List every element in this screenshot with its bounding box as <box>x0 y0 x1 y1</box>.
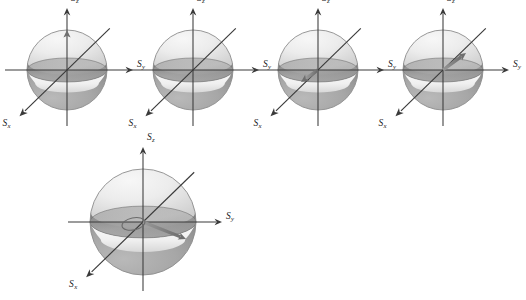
axis-label-sx-base: S <box>2 118 7 128</box>
axis-label-sx-base: S <box>253 118 258 128</box>
axis-label-sz: Sz <box>71 0 78 4</box>
axis-label-sz-subscript: z <box>152 136 155 143</box>
figure-canvas: SzSySxSzSySxSzSySxSzSySxSzSySx <box>0 0 526 300</box>
axis-label-sz-subscript: z <box>452 0 455 4</box>
axis-label-sz: Sz <box>147 133 154 143</box>
axis-label-sz-subscript: z <box>76 0 79 4</box>
axis-label-sz-subscript: z <box>202 0 205 4</box>
axis-label-sx-subscript: x <box>8 122 11 129</box>
axis-label-sz: Sz <box>447 0 454 4</box>
axis-label-sx: Sx <box>253 119 261 129</box>
axis-label-sx-subscript: x <box>259 122 262 129</box>
spin-sphere-diagram: SzSySx <box>48 127 238 300</box>
axis-label-sy: Sy <box>226 212 234 222</box>
axis-label-sy: Sy <box>513 60 521 70</box>
axis-label-sz-subscript: z <box>327 0 330 4</box>
axis-label-sx-subscript: x <box>74 283 77 290</box>
axis-label-sx: Sx <box>378 119 386 129</box>
axis-label-sx: Sx <box>69 280 77 290</box>
axis-label-sz: Sz <box>197 0 204 4</box>
axis-label-sx: Sx <box>2 119 10 129</box>
axis-label-sy-subscript: y <box>518 63 521 70</box>
axis-label-sz: Sz <box>322 0 329 4</box>
axis-label-sy-subscript: y <box>231 215 234 222</box>
axis-label-sx-base: S <box>378 118 383 128</box>
spin-sphere-diagram: SzSySx <box>361 0 525 152</box>
axis-label-sx-subscript: x <box>384 122 387 129</box>
